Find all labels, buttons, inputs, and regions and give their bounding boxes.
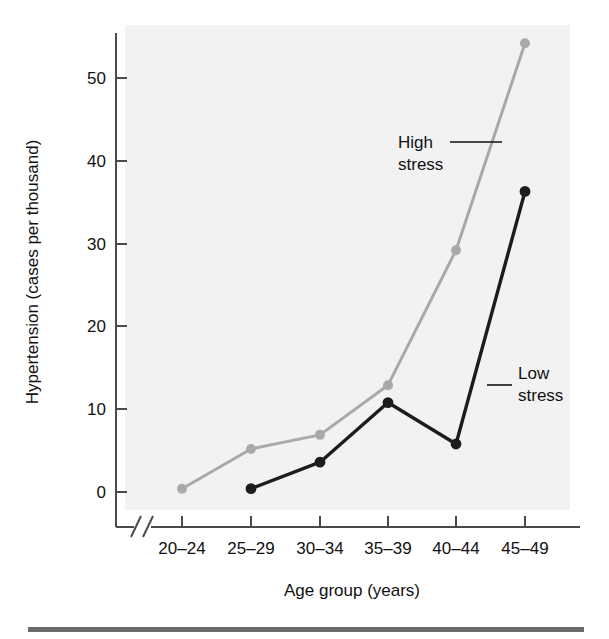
data-point-marker xyxy=(315,457,326,468)
data-point-marker xyxy=(246,483,257,494)
y-tick-label-30: 30 xyxy=(87,235,106,254)
data-point-marker xyxy=(520,186,531,197)
low-stress-label-line1: Low xyxy=(518,364,550,383)
x-axis-title: Age group (years) xyxy=(284,581,420,600)
data-point-marker xyxy=(451,245,461,255)
x-tick-label-35-39: 35–39 xyxy=(364,539,411,558)
x-tick-label-45-49: 45–49 xyxy=(501,539,548,558)
x-axis-ticks xyxy=(182,516,525,527)
low-stress-label-line2: stress xyxy=(518,386,563,405)
data-point-marker xyxy=(383,380,393,390)
x-tick-label-20-24: 20–24 xyxy=(158,539,205,558)
y-tick-label-20: 20 xyxy=(87,317,106,336)
y-tick-label-0: 0 xyxy=(97,483,106,502)
x-tick-label-40-44: 40–44 xyxy=(432,539,479,558)
data-point-marker xyxy=(520,38,530,48)
high-stress-label-line1: High xyxy=(398,133,433,152)
hypertension-by-age-line-chart: 0 10 20 30 40 50 20–24 25–29 30–34 35–39… xyxy=(0,0,609,639)
y-tick-label-40: 40 xyxy=(87,152,106,171)
x-tick-label-25-29: 25–29 xyxy=(227,539,274,558)
high-stress-label-line2: stress xyxy=(398,155,443,174)
data-point-marker xyxy=(315,430,325,440)
x-axis-break-icon xyxy=(131,516,153,537)
bottom-divider-rule xyxy=(28,627,584,632)
data-point-marker xyxy=(383,397,394,408)
x-tick-label-30-34: 30–34 xyxy=(296,539,343,558)
figure-container: 0 10 20 30 40 50 20–24 25–29 30–34 35–39… xyxy=(0,0,609,639)
y-tick-label-10: 10 xyxy=(87,400,106,419)
y-axis-title: Hypertension (cases per thousand) xyxy=(23,140,42,405)
data-point-marker xyxy=(451,439,462,450)
data-point-marker xyxy=(177,484,187,494)
y-tick-label-50: 50 xyxy=(87,69,106,88)
data-point-marker xyxy=(246,444,256,454)
